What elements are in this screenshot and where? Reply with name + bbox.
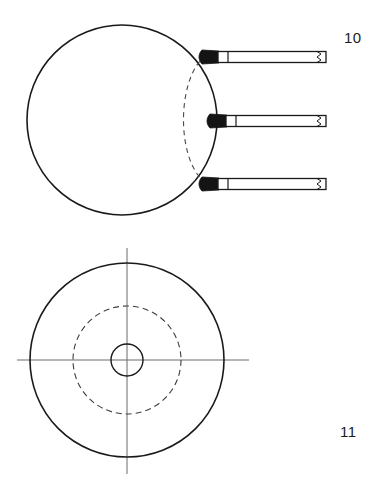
lead-middle [207, 114, 326, 128]
lead-bottom-tip [199, 177, 219, 191]
lead-bottom-shank [218, 179, 326, 190]
lead-top-shank [218, 52, 326, 63]
sphere-outline [27, 25, 217, 215]
lead-middle-shank [226, 116, 326, 127]
lead-top-tip [199, 50, 219, 64]
drawing-sheet: 10 11 [0, 0, 382, 482]
figure-10 [27, 25, 326, 215]
figure-label-10: 10 [344, 30, 362, 45]
hidden-edge-arc [184, 55, 207, 183]
lead-bottom [199, 177, 326, 191]
figure-11 [17, 248, 249, 474]
lead-middle-tip [207, 114, 227, 128]
technical-drawing-canvas [0, 0, 382, 482]
lead-top [199, 50, 326, 64]
figure-label-11: 11 [340, 424, 357, 439]
